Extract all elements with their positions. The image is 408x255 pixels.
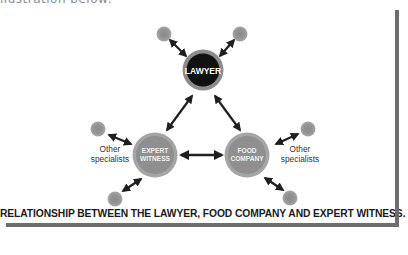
small-node-top-right: [233, 27, 248, 42]
small-node-bottom-left: [108, 192, 123, 207]
frame-shadow-bottom: [6, 223, 399, 227]
figure-caption: RELATIONSHIP BETWEEN THE LAWYER, FOOD CO…: [0, 208, 399, 219]
arrow-food-right: [276, 134, 298, 144]
small-node-left: [91, 122, 106, 137]
left-specialists-label: Other specialists: [88, 144, 132, 164]
arrow-lawyer-food: [215, 96, 240, 130]
expert-label-line2: WITNESS: [140, 155, 171, 162]
lawyer-label: LAWYER: [185, 66, 221, 76]
arrow-expert-bottomleft: [123, 179, 141, 191]
lawyer-node: LAWYER: [183, 50, 224, 91]
small-node-right: [301, 122, 316, 137]
right-label-line2: specialists: [278, 154, 322, 164]
arrow-lawyer-topright: [220, 40, 234, 56]
expert-label-line1: EXPERT: [142, 147, 168, 154]
small-node-top-left: [157, 27, 172, 42]
right-specialists-label: Other specialists: [278, 144, 322, 164]
arrow-expert-left: [109, 135, 131, 144]
food-company-node: FOOD COMPANY: [225, 133, 270, 178]
food-label-line2: COMPANY: [230, 155, 264, 162]
small-node-bottom-right: [283, 191, 298, 206]
left-label-line1: Other: [88, 144, 132, 154]
food-label-line1: FOOD: [237, 147, 256, 154]
frame-shadow-right: [395, 10, 399, 227]
left-label-line2: specialists: [88, 154, 132, 164]
arrow-lawyer-topleft: [170, 40, 186, 56]
arrow-lawyer-expert: [167, 96, 192, 130]
arrow-food-bottomright: [265, 178, 283, 190]
expert-witness-node: EXPERT WITNESS: [133, 133, 178, 178]
right-label-line1: Other: [278, 144, 322, 154]
